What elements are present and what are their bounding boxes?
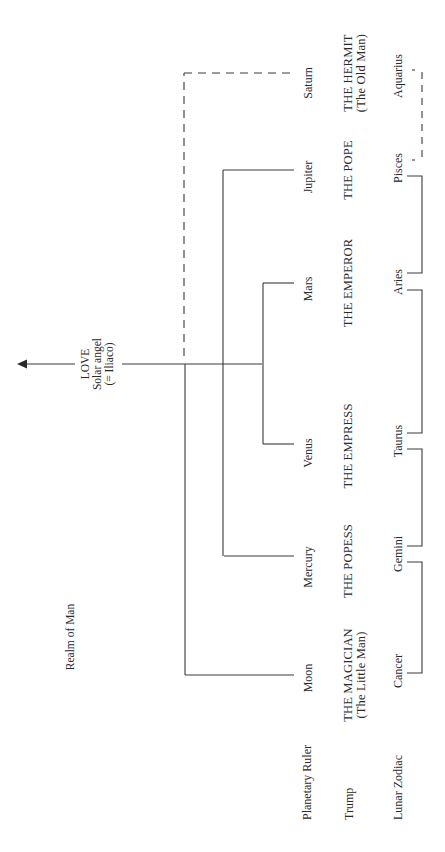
arrowhead-icon [17, 360, 27, 369]
zodiac-aries: Aries [392, 269, 405, 295]
gemini-cancer-bracket [407, 562, 422, 673]
trump-emperor: THE EMPEROR [342, 239, 355, 328]
row-label-lunar-zodiac: Lunar Zodiac [392, 755, 405, 820]
diagram-connectors [0, 0, 445, 852]
solar-angel-label: Solar angel [91, 338, 103, 390]
trump-magician-subtitle: (The Little Man) [355, 628, 368, 722]
love-label: LOVE [79, 338, 91, 390]
trump-magician: THE MAGICIAN (The Little Man) [342, 628, 368, 722]
zodiac-gemini: Gemini [392, 536, 405, 572]
trump-empress: THE EMPRESS [342, 403, 355, 488]
zodiac-aquarius: Aquarius [392, 54, 405, 98]
planet-saturn: Saturn [302, 67, 315, 98]
love-solar-angel-label: LOVE Solar angel (= Iliaco) [79, 338, 115, 390]
planet-mars: Mars [302, 277, 315, 302]
iliaco-label: (= Iliaco) [103, 338, 115, 390]
aries-taurus-bracket [407, 290, 422, 433]
zodiac-cancer: Cancer [392, 654, 405, 688]
row-label-trump: Trump [343, 788, 356, 820]
trump-hermit: THE HERMIT (The Old Man) [342, 34, 368, 112]
realm-of-man-label: Realm of Man [64, 604, 76, 670]
planet-venus: Venus [302, 438, 315, 467]
zodiac-taurus: Taurus [392, 425, 405, 457]
planet-moon: Moon [302, 664, 315, 693]
taurus-gemini-bracket [407, 449, 422, 546]
trump-hermit-subtitle: (The Old Man) [355, 34, 368, 112]
planet-mercury: Mercury [302, 546, 315, 587]
trump-popess: THE POPESS [342, 524, 355, 598]
row-label-planetary-ruler: Planetary Ruler [301, 745, 314, 820]
zodiac-pisces: Pisces [392, 153, 405, 183]
planet-jupiter: Jupiter [302, 161, 315, 194]
trump-pope: THE POPE [342, 140, 355, 200]
pisces-aries-bracket [407, 176, 422, 273]
